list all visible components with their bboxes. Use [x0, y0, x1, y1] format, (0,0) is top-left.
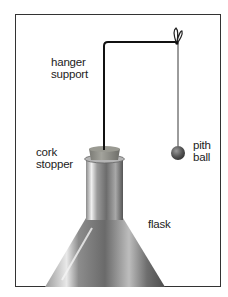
label-line: stopper	[36, 158, 73, 170]
label-hanger-support: hanger support	[51, 56, 88, 80]
label-cork-stopper: cork stopper	[36, 146, 73, 170]
pith-ball	[171, 146, 185, 160]
label-line: ball	[193, 151, 211, 163]
label-pith-ball: pith ball	[193, 139, 211, 163]
label-flask: flask	[148, 218, 171, 230]
label-line: support	[51, 68, 88, 80]
label-line: pith	[193, 139, 211, 151]
label-line: cork	[36, 146, 73, 158]
label-line: hanger	[51, 56, 88, 68]
hanger-support	[104, 42, 176, 150]
flask	[45, 155, 165, 287]
